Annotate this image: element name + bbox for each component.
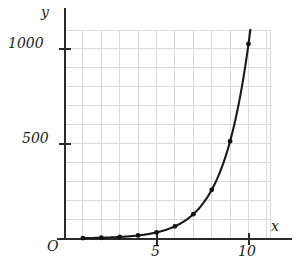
- y-tick-label-1000: 1000: [8, 36, 44, 50]
- data-curve: [83, 30, 250, 238]
- origin-label: O: [47, 239, 58, 253]
- axis-ticks: [59, 49, 249, 245]
- gridlines: [65, 31, 271, 239]
- data-points: [81, 42, 251, 241]
- x-tick-label-5: 5: [151, 244, 160, 258]
- y-tick-label-500: 500: [22, 131, 49, 145]
- x-tick-label-10: 10: [238, 244, 256, 258]
- exponential-growth-chart: y x O 1000 500 5 10: [0, 0, 299, 269]
- x-axis-label: x: [271, 219, 279, 233]
- y-axis-label: y: [41, 5, 49, 19]
